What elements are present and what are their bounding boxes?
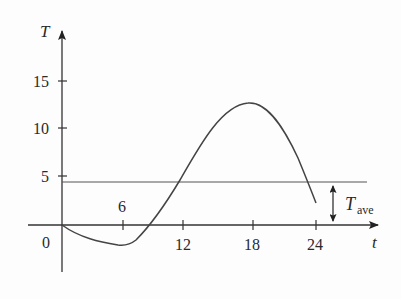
- x-tick-label-12: 12: [175, 236, 191, 253]
- y-tick-label-10: 10: [33, 120, 49, 137]
- x-tick-label-18: 18: [244, 236, 260, 253]
- y-tick-label-5: 5: [41, 168, 49, 185]
- chart-canvas: T t 0 15 10 5 6 12 18 24 T ave: [0, 0, 401, 299]
- x-axis-label: t: [372, 233, 378, 252]
- y-tick-label-15: 15: [33, 73, 49, 90]
- tave-label: T: [345, 194, 357, 214]
- y-axis-label: T: [40, 22, 51, 41]
- temperature-graph: T t 0 15 10 5 6 12 18 24 T ave: [0, 0, 401, 299]
- x-tick-label-24: 24: [307, 236, 323, 253]
- temperature-curve: [62, 103, 316, 245]
- x-tick-label-6: 6: [118, 198, 126, 215]
- origin-label: 0: [42, 234, 50, 251]
- tave-subscript: ave: [357, 203, 374, 217]
